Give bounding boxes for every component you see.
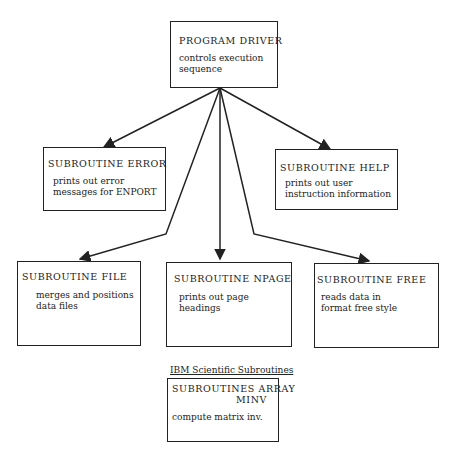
node-title: SUBROUTINE HELP bbox=[280, 162, 390, 173]
node-description: merges and positions data files bbox=[36, 290, 134, 312]
node-ibm-array-minv: SUBROUTINES ARRAY MINV compute matrix in… bbox=[167, 378, 279, 442]
node-subroutine-help: SUBROUTINE HELP prints out user instruct… bbox=[275, 149, 398, 210]
node-title-line1: SUBROUTINES ARRAY bbox=[172, 383, 295, 394]
node-title: SUBROUTINE ERROR bbox=[48, 158, 167, 169]
node-title-line2: MINV bbox=[236, 394, 267, 405]
node-description: prints out page headings bbox=[179, 292, 249, 314]
node-description: reads data in format free style bbox=[321, 292, 397, 314]
node-subroutine-error: SUBROUTINE ERROR prints out error messag… bbox=[43, 147, 166, 211]
node-title: SUBROUTINE FILE bbox=[22, 271, 127, 282]
node-subroutine-free: SUBROUTINE FREE reads data in format fre… bbox=[314, 263, 439, 348]
node-program-driver: PROGRAM DRIVER controls execution sequen… bbox=[170, 21, 278, 88]
node-title: SUBROUTINE FREE bbox=[317, 274, 426, 285]
node-description: compute matrix inv. bbox=[172, 412, 263, 423]
arrow-driver-to-help bbox=[220, 88, 330, 149]
node-subroutine-file: SUBROUTINE FILE merges and positions dat… bbox=[17, 261, 141, 346]
node-title: PROGRAM DRIVER bbox=[179, 35, 283, 46]
node-description: controls execution sequence bbox=[179, 53, 263, 75]
node-description: prints out user instruction information bbox=[285, 178, 391, 200]
ibm-scientific-subroutines-label: IBM Scientific Subroutines bbox=[170, 365, 293, 375]
node-subroutine-npage: SUBROUTINE NPAGE prints out page heading… bbox=[166, 262, 292, 347]
node-description: prints out error messages for ENPORT bbox=[53, 176, 156, 198]
node-title: SUBROUTINE NPAGE bbox=[174, 273, 292, 284]
arrow-driver-to-error bbox=[104, 88, 220, 147]
